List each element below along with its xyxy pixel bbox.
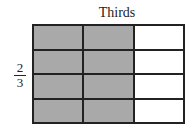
empty-cell xyxy=(134,25,184,50)
shaded-cell xyxy=(83,74,133,99)
empty-cell xyxy=(134,99,184,124)
fraction-label: 2 3 xyxy=(13,62,27,89)
shaded-cell xyxy=(33,74,83,99)
diagram-title: Thirds xyxy=(92,5,142,21)
fraction-denominator: 3 xyxy=(13,77,27,89)
shaded-cell xyxy=(33,99,83,124)
shaded-cell xyxy=(83,50,133,75)
fraction-numerator: 2 xyxy=(13,62,27,74)
empty-cell xyxy=(134,74,184,99)
empty-cell xyxy=(134,50,184,75)
shaded-cell xyxy=(33,50,83,75)
shaded-cell xyxy=(83,25,133,50)
shaded-cell xyxy=(83,99,133,124)
fraction-grid xyxy=(32,24,185,124)
shaded-cell xyxy=(33,25,83,50)
